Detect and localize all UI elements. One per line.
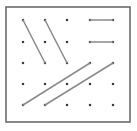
geoboard-canvas (0, 0, 137, 131)
geoboard-figure (0, 0, 137, 131)
grid-dot-r1-c3 (66, 19, 68, 21)
grid-dot-r4-c1 (22, 83, 24, 85)
grid-dot-r4-c4 (89, 83, 91, 85)
grid-dot-r3-c1 (22, 62, 24, 64)
grid-dot-r5-c3 (66, 104, 68, 106)
grid-dot-r4-c2 (44, 83, 46, 85)
grid-dot-r4-c5 (112, 83, 114, 85)
grid-dot-r5-c4 (89, 104, 91, 106)
grid-dot-r5-c5 (112, 104, 114, 106)
grid-dot-r4-c3 (66, 83, 68, 85)
grid-dot-r2-c3 (66, 41, 68, 43)
grid-dot-r2-c2 (44, 41, 46, 43)
grid-dot-r2-c1 (22, 41, 24, 43)
